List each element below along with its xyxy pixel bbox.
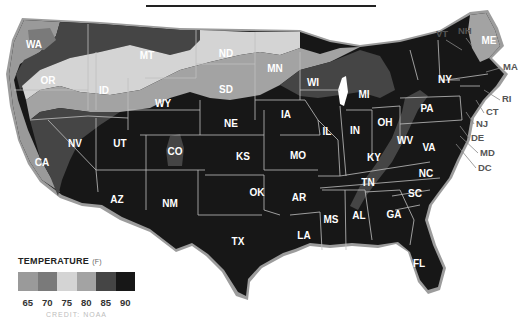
state-label-oh: OH [378, 117, 393, 128]
state-label-fl: FL [413, 258, 425, 269]
legend-tick-80: 80 [77, 297, 97, 308]
state-label-il: IL [323, 126, 332, 137]
legend-title: TEMPERATURE(F) [18, 256, 135, 266]
state-label-ma: MA [503, 61, 518, 72]
state-label-nd: ND [219, 48, 233, 59]
state-label-nc: NC [419, 168, 433, 179]
legend-swatch-85 [96, 272, 116, 291]
legend-tick-85: 85 [96, 297, 116, 308]
legend-swatch-80 [77, 272, 97, 291]
legend-swatch-65 [18, 272, 38, 291]
state-label-ms: MS [324, 214, 339, 225]
state-label-md: MD [480, 147, 495, 158]
state-label-in: IN [350, 125, 360, 136]
state-label-ia: IA [281, 109, 291, 120]
legend-unit: (F) [92, 258, 102, 265]
state-label-ok: OK [250, 187, 266, 198]
state-label-mi: MI [358, 89, 369, 100]
state-label-ri: RI [502, 93, 512, 104]
credit-text: CREDIT: NOAA [46, 311, 107, 318]
state-label-vt: VT [436, 28, 448, 39]
state-label-ks: KS [236, 151, 250, 162]
state-label-ky: KY [367, 152, 381, 163]
state-label-ga: GA [387, 209, 402, 220]
legend-swatches [18, 272, 135, 291]
state-label-co: CO [168, 146, 183, 157]
state-label-wa: WA [26, 39, 42, 50]
state-label-mn: MN [267, 63, 283, 74]
state-label-wy: WY [155, 98, 171, 109]
state-label-tn: TN [361, 177, 374, 188]
state-label-ca: CA [35, 157, 49, 168]
state-label-me: ME [482, 35, 497, 46]
state-label-nj: NJ [476, 118, 488, 129]
state-label-wv: WV [397, 135, 413, 146]
legend-title-text: TEMPERATURE [18, 256, 89, 266]
legend-tick-70: 70 [38, 297, 58, 308]
legend-swatch-90 [116, 272, 136, 291]
legend-ticks: 657075808590 [18, 297, 135, 308]
legend-swatch-70 [38, 272, 58, 291]
state-label-dc: DC [478, 162, 492, 173]
state-label-nv: NV [68, 138, 82, 149]
legend-tick-90: 90 [116, 297, 136, 308]
state-label-id: ID [99, 85, 109, 96]
legend-swatch-75 [57, 272, 77, 291]
legend-tick-75: 75 [57, 297, 77, 308]
state-label-mo: MO [290, 150, 306, 161]
state-label-wi: WI [307, 77, 319, 88]
legend-tick-65: 65 [18, 297, 38, 308]
state-label-ut: UT [113, 138, 126, 149]
state-label-sd: SD [219, 84, 233, 95]
state-label-al: AL [352, 210, 365, 221]
state-label-nh: NH [458, 25, 472, 36]
state-label-nm: NM [162, 198, 178, 209]
state-label-ne: NE [224, 118, 238, 129]
state-label-la: LA [297, 230, 310, 241]
state-label-va: VA [422, 142, 435, 153]
state-label-ar: AR [292, 192, 307, 203]
state-label-ny: NY [438, 74, 452, 85]
state-label-az: AZ [110, 194, 123, 205]
state-label-sc: SC [408, 188, 422, 199]
state-label-de: DE [471, 132, 484, 143]
state-label-pa: PA [420, 103, 433, 114]
temperature-legend: TEMPERATURE(F) 657075808590 [18, 256, 135, 308]
state-label-ct: CT [486, 106, 499, 117]
state-label-tx: TX [232, 236, 245, 247]
state-label-or: OR [41, 75, 57, 86]
state-label-mt: MT [140, 50, 154, 61]
